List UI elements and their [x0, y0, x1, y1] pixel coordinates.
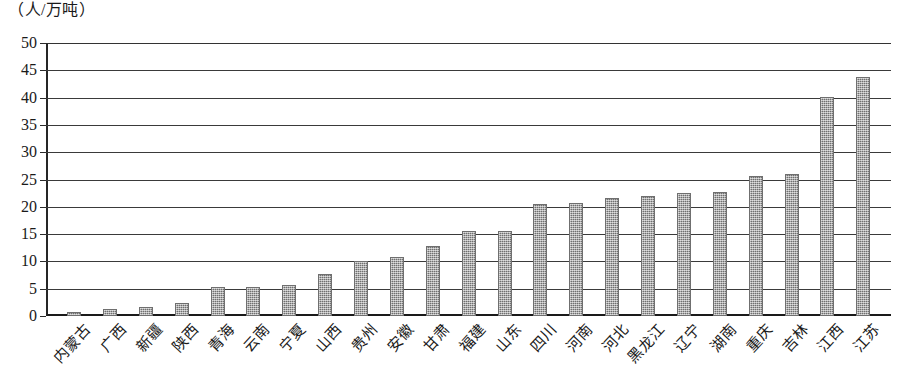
y-axis-tick-label: 40: [21, 90, 37, 106]
y-axis-unit-label: （人/万吨）: [8, 2, 95, 18]
bar: [713, 192, 727, 316]
x-axis-tick-label: 陕西: [170, 322, 203, 355]
x-axis-tick-label: 山东: [493, 322, 526, 355]
x-axis-labels: 内蒙古广西新疆陕西青海云南宁夏山西贵州安徽甘肃福建山东四川河南河北黑龙江辽宁湖南…: [46, 318, 891, 380]
bar: [533, 204, 547, 316]
x-axis-tick-label: 江苏: [851, 322, 884, 355]
bar: [677, 193, 691, 316]
bar: [246, 287, 260, 316]
x-axis-tick-label: 内蒙古: [51, 322, 94, 367]
bar: [282, 285, 296, 316]
y-axis-tick-label: 35: [21, 117, 37, 133]
y-axis-tick-label: 45: [21, 62, 37, 78]
plot-area: 05101520253035404550: [46, 43, 891, 316]
x-axis-tick-label: 河南: [564, 322, 597, 355]
x-axis-tick-label: 辽宁: [672, 322, 705, 355]
x-axis-tick-label: 吉林: [780, 322, 813, 355]
y-axis-tick-label: 0: [29, 308, 37, 324]
x-axis-tick-label: 福建: [457, 322, 490, 355]
bar: [390, 257, 404, 316]
x-axis-tick-label: 江西: [815, 322, 848, 355]
bar: [785, 174, 799, 316]
x-axis-tick-label: 山西: [313, 322, 346, 355]
y-axis-tick-label: 50: [21, 35, 37, 51]
y-axis-tick-label: 20: [21, 199, 37, 215]
y-axis-tick-label: 15: [21, 226, 37, 242]
bar: [318, 274, 332, 316]
bar: [175, 303, 189, 316]
x-axis-tick-label: 广西: [98, 322, 131, 355]
bar: [426, 246, 440, 316]
y-axis-tick-label: 25: [21, 172, 37, 188]
bar: [641, 196, 655, 316]
x-axis-tick-label: 云南: [241, 322, 274, 355]
x-axis-tick-label: 甘肃: [421, 322, 454, 355]
x-axis-tick-label: 宁夏: [277, 322, 310, 355]
x-axis-tick-label: 四川: [528, 322, 561, 355]
bar: [749, 176, 763, 316]
bar: [569, 203, 583, 316]
bar: [856, 77, 870, 316]
bar: [139, 307, 153, 316]
bars-layer: [46, 43, 891, 316]
x-axis-tick-label: 贵州: [349, 322, 382, 355]
bar: [820, 97, 834, 316]
x-axis-tick-label: 黑龙江: [626, 322, 669, 367]
y-axis-tick-label: 10: [21, 253, 37, 269]
x-axis-tick-label: 新疆: [134, 322, 167, 355]
y-axis-tick-label: 5: [29, 281, 37, 297]
x-axis-tick-label: 湖南: [708, 322, 741, 355]
bar: [498, 231, 512, 316]
bar-chart-figure: （人/万吨） 05101520253035404550 内蒙古广西新疆陕西青海云…: [0, 0, 897, 380]
x-axis-tick-label: 青海: [205, 322, 238, 355]
bar: [67, 312, 81, 316]
y-axis-tick-mark: [40, 316, 46, 317]
bar: [462, 231, 476, 316]
y-axis-tick-label: 30: [21, 144, 37, 160]
bar: [605, 198, 619, 316]
bar: [354, 261, 368, 316]
x-axis-tick-label: 安徽: [385, 322, 418, 355]
x-axis-tick-label: 重庆: [744, 322, 777, 355]
bar: [211, 287, 225, 316]
bar: [103, 309, 117, 316]
